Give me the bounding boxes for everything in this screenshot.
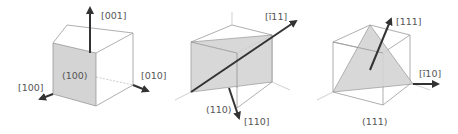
cube-100-top-edge xyxy=(96,33,133,53)
cube-100-bottom-edge xyxy=(96,85,133,106)
plane-111 xyxy=(333,25,413,92)
cube-110-diagram: [ī11] [110] (110) xyxy=(175,11,296,127)
label-010: [010] xyxy=(141,70,167,81)
label-plane-111: (111) xyxy=(362,116,388,127)
direction-010-arrow xyxy=(133,85,148,91)
cube-100-diagram: [001] [010] [100] (100) xyxy=(18,8,167,106)
label-111-direction: [111] xyxy=(396,16,422,27)
label-100: [100] xyxy=(18,82,44,93)
cube-100-hidden-edge xyxy=(96,77,133,85)
cube-110-y-axis xyxy=(272,82,290,90)
cube-111-diagram: [111] [ī10] (111) xyxy=(317,16,441,127)
label-plane-100: (100) xyxy=(62,70,88,81)
label-plane-110: (110) xyxy=(206,104,232,115)
label-001: [001] xyxy=(101,10,127,21)
cube-110-x-axis xyxy=(175,92,191,100)
label-bar111: [ī11] xyxy=(265,11,287,22)
crystal-planes-figure: [001] [010] [100] (100) [ī11] [110] (110… xyxy=(0,0,458,134)
cube-111-x-axis xyxy=(317,92,333,100)
label-bar110: [ī10] xyxy=(419,68,441,79)
label-110-direction: [110] xyxy=(244,116,270,127)
direction-100-arrow xyxy=(40,94,53,99)
